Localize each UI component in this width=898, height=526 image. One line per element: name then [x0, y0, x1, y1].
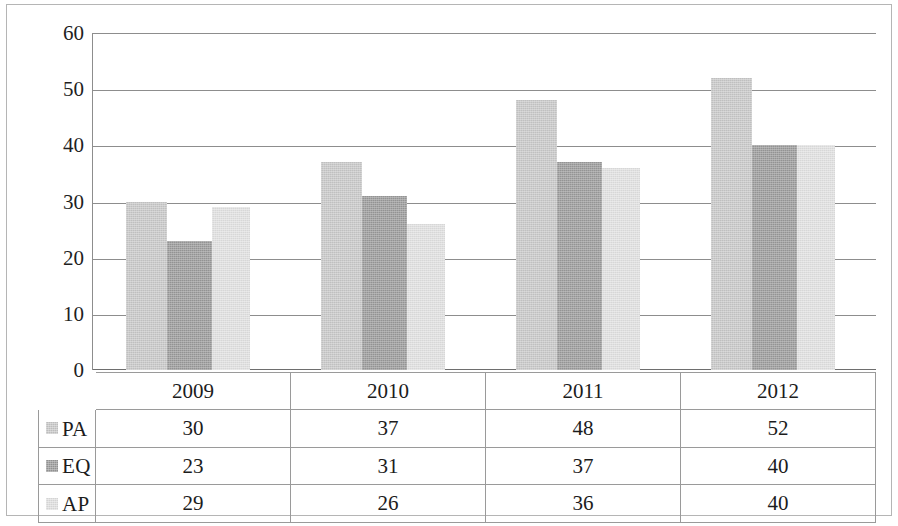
gridline-40	[93, 146, 876, 147]
table-row-eq: EQ 23 31 37 40	[39, 447, 876, 485]
cell-eq-2012: 40	[681, 447, 876, 485]
cell-pa-2010: 37	[291, 410, 486, 448]
table-header-2011: 2011	[486, 373, 681, 410]
gridline-50	[93, 90, 876, 91]
y-axis-tick-10: 10	[10, 303, 84, 324]
y-axis-tick-50: 50	[10, 79, 84, 100]
y-axis-tick-30: 30	[10, 191, 84, 212]
chart-data-table: 2009 2010 2011 2012 PA 30 37 48 52 EQ 23…	[38, 372, 876, 523]
cell-eq-2011: 37	[486, 447, 681, 485]
series-swatch-pa-icon	[46, 422, 58, 434]
cell-eq-2010: 31	[291, 447, 486, 485]
y-axis-tick-40: 40	[10, 135, 84, 156]
legend-label-pa: PA	[62, 412, 88, 447]
legend-entry-ap: AP	[39, 485, 96, 523]
legend-label-eq: EQ	[62, 449, 91, 484]
plot-area	[92, 33, 876, 370]
y-axis: 60 50 40 30 20 10 0	[0, 33, 84, 370]
x-axis-baseline	[93, 369, 876, 370]
table-header-2009: 2009	[96, 373, 291, 410]
cell-ap-2009: 29	[96, 485, 291, 523]
bar-chart-figure: 60 50 40 30 20 10 0	[0, 0, 898, 526]
table-corner-cell	[39, 373, 96, 410]
legend-label-ap: AP	[62, 487, 89, 522]
series-swatch-eq-icon	[46, 460, 58, 472]
cell-ap-2012: 40	[681, 485, 876, 523]
cell-ap-2010: 26	[291, 485, 486, 523]
series-swatch-ap-icon	[46, 498, 58, 510]
gridline-30	[93, 203, 876, 204]
cell-eq-2009: 23	[96, 447, 291, 485]
table-header-2012: 2012	[681, 373, 876, 410]
gridline-20	[93, 259, 876, 260]
legend-entry-eq: EQ	[39, 447, 96, 485]
table-header-row: 2009 2010 2011 2012	[39, 373, 876, 410]
cell-pa-2011: 48	[486, 410, 681, 448]
cell-pa-2012: 52	[681, 410, 876, 448]
legend-entry-pa: PA	[39, 410, 96, 448]
table-header-2010: 2010	[291, 373, 486, 410]
gridline-10	[93, 315, 876, 316]
table-row-ap: AP 29 26 36 40	[39, 485, 876, 523]
y-axis-tick-20: 20	[10, 247, 84, 268]
y-axis-tick-60: 60	[10, 23, 84, 44]
cell-ap-2011: 36	[486, 485, 681, 523]
cell-pa-2009: 30	[96, 410, 291, 448]
table-row-pa: PA 30 37 48 52	[39, 410, 876, 448]
